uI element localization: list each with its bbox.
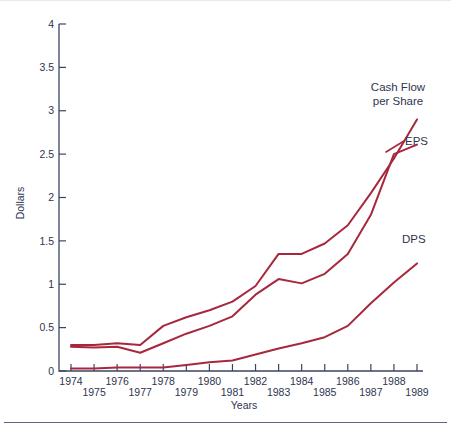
x-tick-label: 1989 <box>405 386 429 398</box>
line-chart-plot: 00.511.522.533.54 1974197519761977197819… <box>0 0 451 437</box>
y-tick-label: 3.5 <box>39 61 54 73</box>
x-tick-label: 1976 <box>105 375 129 387</box>
y-tick-label: 4 <box>48 18 54 30</box>
x-tick-label: 1980 <box>198 375 222 387</box>
x-tick-label: 1983 <box>267 386 291 398</box>
label-dps: DPS <box>402 233 426 245</box>
series-line-dps <box>71 263 417 368</box>
x-tick-label: 1984 <box>290 375 314 387</box>
label-cash-flow-line1: Cash Flow <box>371 81 426 93</box>
y-tick-label: 0.5 <box>39 321 54 333</box>
series-line-cash-flow-per-share <box>71 119 417 345</box>
x-tick-label: 1987 <box>359 386 383 398</box>
x-tick-label: 1982 <box>244 375 268 387</box>
y-axis-title: Dollars <box>14 187 26 220</box>
x-tick-label: 1975 <box>82 386 106 398</box>
x-tick-label: 1988 <box>382 375 406 387</box>
label-eps: EPS <box>405 135 428 147</box>
x-tick-label: 1985 <box>313 386 337 398</box>
y-tick-label: 1 <box>48 278 54 290</box>
y-tick-label: 3 <box>48 104 54 116</box>
y-tick-label: 1.5 <box>39 235 54 247</box>
x-tick-label: 1977 <box>129 386 153 398</box>
x-axis-title: Years <box>231 399 257 411</box>
label-cash-flow-line2: per Share <box>373 95 424 107</box>
chart-figure: 00.511.522.533.54 1974197519761977197819… <box>0 0 451 437</box>
x-tick-label: 1981 <box>221 386 245 398</box>
y-tick-label: 0 <box>48 365 54 377</box>
x-tick-label: 1986 <box>336 375 360 387</box>
series-group <box>71 119 417 368</box>
x-tick-label: 1978 <box>152 375 176 387</box>
y-tick-group: 00.511.522.533.54 <box>39 18 66 377</box>
x-tick-group: 1974197519761977197819791980198119821983… <box>59 364 429 398</box>
series-line-eps <box>71 145 417 353</box>
series-label-group: Cash Flowper ShareEPSDPS <box>371 81 429 245</box>
y-tick-label: 2.5 <box>39 148 54 160</box>
x-tick-label: 1974 <box>59 375 83 387</box>
x-tick-label: 1979 <box>175 386 199 398</box>
footer-rule <box>4 422 447 423</box>
y-tick-label: 2 <box>48 191 54 203</box>
